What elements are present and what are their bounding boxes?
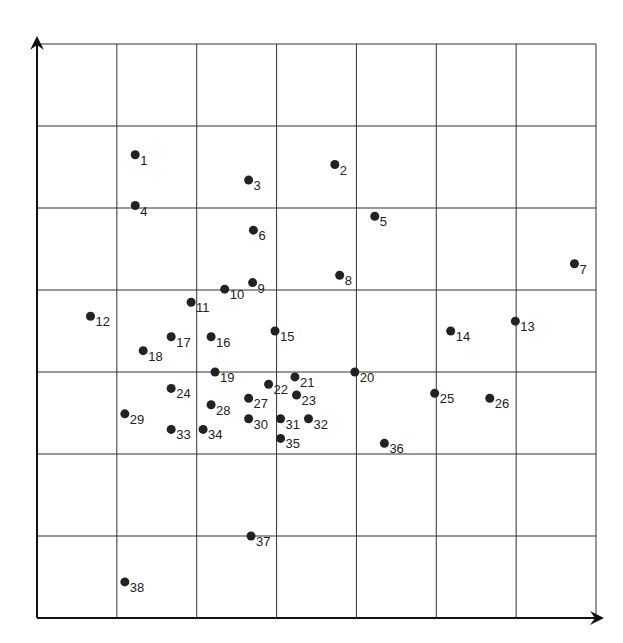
point-label: 23: [302, 393, 316, 408]
point-label: 24: [176, 386, 190, 401]
point-marker: [207, 400, 216, 409]
point-marker: [276, 414, 285, 423]
point-label: 4: [140, 204, 147, 219]
data-point: 15: [270, 327, 294, 345]
point-label: 36: [389, 441, 403, 456]
data-point: 14: [446, 327, 470, 345]
data-points: 1234567891011121314151617181920212223242…: [86, 150, 587, 595]
point-label: 3: [254, 178, 261, 193]
data-point: 13: [511, 317, 535, 335]
data-point: 24: [167, 384, 191, 402]
point-label: 2: [340, 163, 347, 178]
point-marker: [244, 394, 253, 403]
data-point: 7: [570, 259, 587, 277]
point-marker: [120, 409, 129, 418]
point-marker: [249, 226, 258, 235]
point-marker: [292, 390, 301, 399]
point-label: 34: [208, 427, 222, 442]
point-label: 33: [176, 427, 190, 442]
point-label: 16: [216, 335, 230, 350]
point-label: 31: [286, 417, 300, 432]
data-point: 32: [304, 414, 328, 432]
point-marker: [211, 368, 220, 377]
data-point: 1: [131, 150, 148, 168]
data-point: 16: [207, 332, 231, 350]
data-point: 20: [350, 368, 374, 386]
axes: [30, 36, 604, 625]
point-label: 21: [300, 375, 314, 390]
point-label: 17: [176, 335, 190, 350]
point-label: 11: [196, 300, 210, 315]
point-label: 35: [286, 436, 300, 451]
point-label: 20: [360, 370, 374, 385]
point-marker: [247, 532, 256, 541]
point-label: 10: [230, 287, 244, 302]
data-point: 27: [244, 394, 268, 412]
point-marker: [350, 368, 359, 377]
point-marker: [264, 380, 273, 389]
point-label: 8: [345, 273, 352, 288]
point-marker: [131, 150, 140, 159]
data-point: 33: [167, 425, 191, 443]
point-label: 1: [140, 153, 147, 168]
data-point: 12: [86, 312, 110, 330]
point-marker: [244, 176, 253, 185]
point-marker: [131, 201, 140, 210]
data-point: 4: [131, 201, 148, 219]
point-label: 30: [254, 417, 268, 432]
point-marker: [187, 298, 196, 307]
data-point: 6: [249, 226, 266, 244]
data-point: 5: [370, 212, 387, 230]
scatter-plot: 1234567891011121314151617181920212223242…: [0, 0, 623, 643]
point-label: 14: [456, 329, 470, 344]
point-label: 28: [216, 403, 230, 418]
point-marker: [446, 327, 455, 336]
point-marker: [511, 317, 520, 326]
point-marker: [485, 394, 494, 403]
point-marker: [167, 332, 176, 341]
point-label: 27: [254, 396, 268, 411]
point-marker: [276, 434, 285, 443]
data-point: 35: [276, 434, 300, 452]
data-point: 8: [335, 271, 352, 289]
point-label: 12: [96, 314, 110, 329]
point-marker: [430, 389, 439, 398]
point-marker: [380, 439, 389, 448]
data-point: 25: [430, 389, 454, 407]
data-point: 30: [244, 414, 268, 432]
data-point: 37: [247, 532, 271, 550]
data-point: 28: [207, 400, 231, 418]
point-label: 26: [495, 396, 509, 411]
point-marker: [335, 271, 344, 280]
point-marker: [304, 414, 313, 423]
point-marker: [244, 414, 253, 423]
point-marker: [570, 259, 579, 268]
data-point: 3: [244, 176, 261, 194]
point-label: 18: [148, 349, 162, 364]
point-label: 25: [440, 391, 454, 406]
data-point: 11: [187, 298, 210, 316]
data-point: 31: [276, 414, 300, 432]
data-point: 23: [292, 390, 316, 408]
point-label: 19: [220, 370, 234, 385]
data-point: 26: [485, 394, 509, 412]
grid-lines: [37, 44, 596, 618]
data-point: 22: [264, 380, 288, 398]
point-label: 22: [274, 382, 288, 397]
data-point: 2: [330, 160, 347, 178]
data-point: 9: [248, 278, 265, 296]
point-marker: [270, 327, 279, 336]
point-marker: [220, 285, 229, 294]
data-point: 17: [167, 332, 191, 350]
point-label: 6: [258, 228, 265, 243]
point-marker: [86, 312, 95, 321]
data-point: 10: [220, 285, 244, 303]
point-label: 32: [314, 417, 328, 432]
point-label: 15: [280, 329, 294, 344]
point-label: 38: [130, 580, 144, 595]
point-marker: [290, 372, 299, 381]
point-label: 7: [579, 262, 586, 277]
point-label: 5: [380, 214, 387, 229]
data-point: 21: [290, 372, 314, 390]
point-marker: [167, 384, 176, 393]
